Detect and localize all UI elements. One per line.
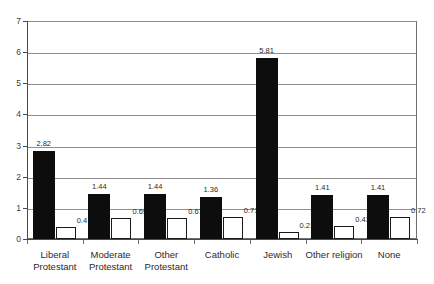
x-axis-tick-mark [361, 240, 362, 244]
y-axis-tick-mark [23, 177, 27, 178]
gridline [28, 53, 416, 54]
y-axis-tick-label: 7 [5, 17, 21, 26]
x-axis-category-label: Jewish [250, 249, 306, 261]
category-label-line: Liberal [27, 249, 83, 261]
y-axis-tick-label: 2 [5, 173, 21, 182]
bar-series-2 [390, 217, 410, 239]
category-label-line: Other [138, 249, 194, 261]
bar-series-2 [223, 217, 243, 239]
bar-series-2 [167, 218, 187, 239]
y-axis-tick-label: 1 [5, 204, 21, 213]
bar-series-2 [279, 232, 299, 239]
bar-series-1 [311, 195, 333, 239]
bar-series-1 [144, 194, 166, 239]
gridline [28, 178, 416, 179]
bar-value-label: 5.81 [250, 47, 284, 55]
category-label-line: Protestant [27, 261, 83, 273]
x-axis-category-label: Other religion [306, 249, 362, 261]
bar-series-1 [256, 58, 278, 239]
category-label-line: Catholic [194, 249, 250, 261]
gridline [28, 147, 416, 148]
bar-series-1 [88, 194, 110, 239]
x-axis-tick-mark [194, 240, 195, 244]
category-label-line: Protestant [83, 261, 139, 273]
y-axis-labels: 01234567 [0, 0, 21, 284]
x-axis-tick-mark [83, 240, 84, 244]
plot-area [27, 21, 417, 239]
y-axis-tick-label: 6 [5, 48, 21, 57]
y-axis-tick-mark [23, 208, 27, 209]
y-axis-tick-label: 0 [5, 235, 21, 244]
x-axis-tick-mark [417, 240, 418, 244]
x-axis-category-label: LiberalProtestant [27, 249, 83, 272]
category-label-line: Moderate [83, 249, 139, 261]
bar-series-2 [111, 218, 131, 239]
y-axis-tick-mark [23, 114, 27, 115]
x-axis-category-label: ModerateProtestant [83, 249, 139, 272]
x-axis-tick-mark [138, 240, 139, 244]
x-axis-category-label: Catholic [194, 249, 250, 261]
bar-value-label: 2.82 [27, 140, 61, 148]
y-axis-tick-mark [23, 21, 27, 22]
y-axis-tick-mark [23, 83, 27, 84]
x-axis-tick-mark [250, 240, 251, 244]
x-axis-line [27, 239, 418, 240]
bar-value-label: 0.72 [411, 207, 433, 215]
bar-value-label: 1.44 [138, 183, 172, 191]
gridline [28, 209, 416, 210]
y-axis-line [27, 21, 28, 240]
y-axis-tick-mark [23, 52, 27, 53]
category-label-line: Jewish [250, 249, 306, 261]
y-axis-tick-label: 4 [5, 110, 21, 119]
bar-value-label: 1.36 [194, 186, 228, 194]
bar-series-2 [56, 227, 76, 239]
x-axis-tick-mark [27, 240, 28, 244]
gridline [28, 84, 416, 85]
bar-series-1 [200, 197, 222, 239]
bar-series-2 [334, 226, 354, 239]
x-axis-category-label: None [361, 249, 417, 261]
gridline [28, 115, 416, 116]
bar-value-label: 1.41 [361, 184, 395, 192]
bar-series-1 [33, 151, 55, 239]
category-label-line: Protestant [138, 261, 194, 273]
bar-chart: 01234567 2.820.4LiberalProtestant1.440.6… [0, 0, 434, 284]
y-axis-tick-label: 3 [5, 142, 21, 151]
bar-value-label: 1.44 [82, 183, 116, 191]
x-axis-tick-mark [306, 240, 307, 244]
category-label-line: Other religion [306, 249, 362, 261]
bar-value-label: 1.41 [305, 184, 339, 192]
bar-series-1 [367, 195, 389, 239]
category-label-line: None [361, 249, 417, 261]
x-axis-category-label: OtherProtestant [138, 249, 194, 272]
y-axis-tick-label: 5 [5, 79, 21, 88]
